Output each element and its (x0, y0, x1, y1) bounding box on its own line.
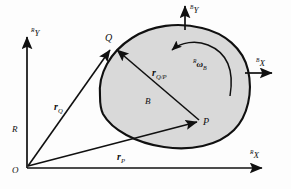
body-y-axis-label: BY (190, 5, 198, 15)
figure-canvas: RY RX BY BX O R Q P B rQ rP rQ/P RωB (0, 0, 291, 189)
point-Q-label: Q (105, 33, 112, 43)
rP-subscript: P (121, 157, 125, 164)
vector-rQ-label: rQ (54, 102, 63, 115)
omega-subscript: B (203, 65, 207, 71)
rQP-subscript: Q/P (156, 73, 167, 80)
body-x-axis-label: BX (256, 58, 265, 68)
angular-velocity-label: RωB (193, 59, 207, 72)
origin-label: O (12, 166, 19, 175)
ref-y-main: Y (34, 28, 39, 38)
ref-x-main: X (253, 150, 259, 160)
vector-rP-label: rP (117, 152, 125, 165)
rQ-subscript: Q (58, 107, 63, 114)
body-label: B (145, 97, 151, 106)
body-y-main: Y (193, 5, 198, 15)
body-x-main: X (259, 58, 265, 68)
vector-rQP-label: rQ/P (152, 68, 167, 81)
ref-x-axis-label: RX (250, 150, 259, 160)
point-P-label: P (203, 117, 209, 127)
ref-y-axis-label: RY (31, 28, 39, 38)
reference-frame-label: R (12, 125, 18, 134)
diagram-svg (0, 0, 291, 189)
rigid-body-shape (100, 25, 250, 148)
